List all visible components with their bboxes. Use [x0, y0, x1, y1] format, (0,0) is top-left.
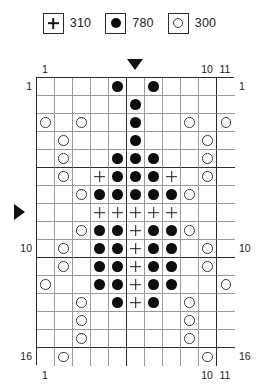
grid-cell-r8-c5[interactable] [109, 204, 127, 222]
grid-cell-r2-c1[interactable] [37, 96, 55, 114]
grid-cell-r12-c11[interactable] [217, 276, 235, 294]
grid-cell-r11-c6[interactable] [127, 258, 145, 276]
grid-cell-r6-c7[interactable] [145, 168, 163, 186]
grid-cell-r11-c8[interactable] [163, 258, 181, 276]
grid-cell-r10-c6[interactable] [127, 240, 145, 258]
grid-cell-r12-c2[interactable] [55, 276, 73, 294]
grid-cell-r1-c6[interactable] [127, 78, 145, 96]
grid-cell-r13-c10[interactable] [199, 294, 217, 312]
grid-cell-r16-c11[interactable] [217, 348, 235, 366]
grid-cell-r9-c7[interactable] [145, 222, 163, 240]
grid-cell-r11-c10[interactable] [199, 258, 217, 276]
grid-cell-r6-c5[interactable] [109, 168, 127, 186]
grid-cell-r9-c1[interactable] [37, 222, 55, 240]
grid-cell-r5-c8[interactable] [163, 150, 181, 168]
grid-cell-r2-c3[interactable] [73, 96, 91, 114]
grid-cell-r16-c6[interactable] [127, 348, 145, 366]
grid-cell-r8-c10[interactable] [199, 204, 217, 222]
grid-cell-r2-c6[interactable] [127, 96, 145, 114]
grid-cell-r11-c2[interactable] [55, 258, 73, 276]
grid-cell-r1-c1[interactable] [37, 78, 55, 96]
grid-cell-r6-c9[interactable] [181, 168, 199, 186]
grid-cell-r9-c5[interactable] [109, 222, 127, 240]
grid-cell-r15-c2[interactable] [55, 330, 73, 348]
grid-cell-r4-c11[interactable] [217, 132, 235, 150]
grid-cell-r9-c9[interactable] [181, 222, 199, 240]
grid-cell-r14-c5[interactable] [109, 312, 127, 330]
grid-cell-r9-c3[interactable] [73, 222, 91, 240]
grid-cell-r7-c8[interactable] [163, 186, 181, 204]
grid-cell-r14-c8[interactable] [163, 312, 181, 330]
grid-cell-r1-c2[interactable] [55, 78, 73, 96]
grid-cell-r10-c8[interactable] [163, 240, 181, 258]
grid-cell-r5-c4[interactable] [91, 150, 109, 168]
grid-cell-r14-c4[interactable] [91, 312, 109, 330]
grid-cell-r8-c8[interactable] [163, 204, 181, 222]
grid-cell-r8-c6[interactable] [127, 204, 145, 222]
grid-cell-r15-c7[interactable] [145, 330, 163, 348]
grid-cell-r7-c4[interactable] [91, 186, 109, 204]
grid-cell-r1-c5[interactable] [109, 78, 127, 96]
grid-cell-r12-c9[interactable] [181, 276, 199, 294]
grid-cell-r2-c5[interactable] [109, 96, 127, 114]
grid-cell-r15-c11[interactable] [217, 330, 235, 348]
grid-cell-r7-c2[interactable] [55, 186, 73, 204]
grid-cell-r16-c1[interactable] [37, 348, 55, 366]
grid-cell-r10-c10[interactable] [199, 240, 217, 258]
grid-cell-r6-c10[interactable] [199, 168, 217, 186]
grid-cell-r10-c4[interactable] [91, 240, 109, 258]
grid-cell-r16-c8[interactable] [163, 348, 181, 366]
grid-cell-r3-c4[interactable] [91, 114, 109, 132]
grid-cell-r11-c3[interactable] [73, 258, 91, 276]
grid-cell-r7-c1[interactable] [37, 186, 55, 204]
grid-cell-r16-c3[interactable] [73, 348, 91, 366]
grid-cell-r13-c6[interactable] [127, 294, 145, 312]
grid-cell-r11-c9[interactable] [181, 258, 199, 276]
grid-cell-r9-c2[interactable] [55, 222, 73, 240]
grid-cell-r8-c1[interactable] [37, 204, 55, 222]
grid-cell-r14-c7[interactable] [145, 312, 163, 330]
grid-cell-r11-c1[interactable] [37, 258, 55, 276]
grid-cell-r12-c1[interactable] [37, 276, 55, 294]
grid-cell-r1-c4[interactable] [91, 78, 109, 96]
grid-cell-r4-c9[interactable] [181, 132, 199, 150]
grid-cell-r4-c3[interactable] [73, 132, 91, 150]
grid-cell-r5-c10[interactable] [199, 150, 217, 168]
grid-cell-r14-c10[interactable] [199, 312, 217, 330]
grid-cell-r8-c4[interactable] [91, 204, 109, 222]
grid-cell-r8-c2[interactable] [55, 204, 73, 222]
grid-cell-r16-c4[interactable] [91, 348, 109, 366]
grid-cell-r4-c8[interactable] [163, 132, 181, 150]
grid-cell-r8-c7[interactable] [145, 204, 163, 222]
grid-cell-r10-c1[interactable] [37, 240, 55, 258]
grid-cell-r9-c6[interactable] [127, 222, 145, 240]
grid-cell-r6-c6[interactable] [127, 168, 145, 186]
grid-cell-r10-c11[interactable] [217, 240, 235, 258]
grid-cell-r9-c10[interactable] [199, 222, 217, 240]
grid-cell-r2-c2[interactable] [55, 96, 73, 114]
grid-cell-r14-c9[interactable] [181, 312, 199, 330]
grid-cell-r8-c9[interactable] [181, 204, 199, 222]
grid-cell-r4-c4[interactable] [91, 132, 109, 150]
grid-cell-r3-c1[interactable] [37, 114, 55, 132]
grid-cell-r7-c6[interactable] [127, 186, 145, 204]
grid-cell-r12-c8[interactable] [163, 276, 181, 294]
grid-cell-r16-c5[interactable] [109, 348, 127, 366]
grid-cell-r14-c11[interactable] [217, 312, 235, 330]
grid-cell-r12-c3[interactable] [73, 276, 91, 294]
grid-cell-r6-c2[interactable] [55, 168, 73, 186]
grid-cell-r1-c7[interactable] [145, 78, 163, 96]
grid-cell-r13-c8[interactable] [163, 294, 181, 312]
grid-cell-r11-c4[interactable] [91, 258, 109, 276]
grid-cell-r7-c3[interactable] [73, 186, 91, 204]
grid-cell-r15-c1[interactable] [37, 330, 55, 348]
grid-cell-r7-c10[interactable] [199, 186, 217, 204]
grid-cell-r3-c8[interactable] [163, 114, 181, 132]
grid-cell-r1-c9[interactable] [181, 78, 199, 96]
grid-cell-r5-c1[interactable] [37, 150, 55, 168]
grid-cell-r4-c7[interactable] [145, 132, 163, 150]
grid-cell-r4-c2[interactable] [55, 132, 73, 150]
grid-cell-r7-c7[interactable] [145, 186, 163, 204]
grid-cell-r5-c2[interactable] [55, 150, 73, 168]
grid-cell-r10-c3[interactable] [73, 240, 91, 258]
